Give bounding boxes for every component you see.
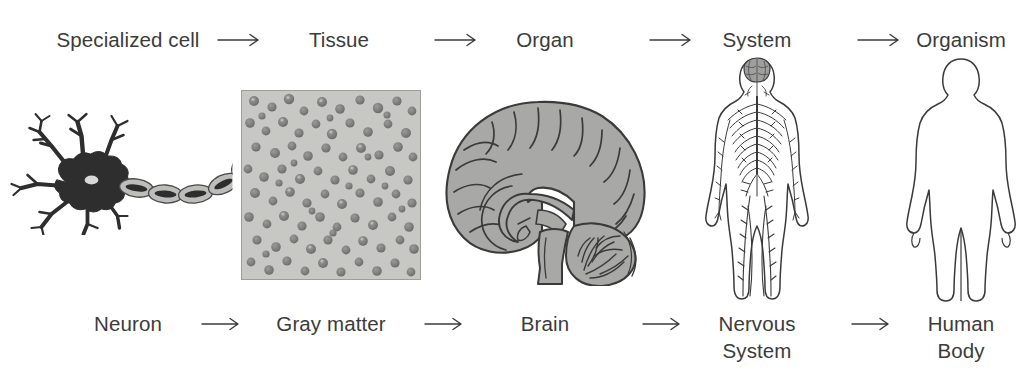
bottom-label-gray-matter: Gray matter bbox=[276, 310, 385, 337]
bottom-label-text-3: Nervous bbox=[718, 312, 795, 335]
bottom-label-text-2: Brain bbox=[521, 312, 569, 335]
bottom-label-text-1: Gray matter bbox=[276, 312, 385, 335]
levels-of-organization-diagram: Specialized cell Tissue Organ System bbox=[0, 0, 1022, 383]
arrow-bottom-1 bbox=[201, 316, 243, 332]
brain-illustration bbox=[434, 98, 656, 286]
top-label-text-4: Organism bbox=[916, 28, 1006, 51]
bottom-label-text-3-line2: System bbox=[718, 337, 795, 364]
top-label-text-0: Specialized cell bbox=[57, 28, 200, 51]
bottom-label-text-4: Human bbox=[928, 312, 995, 335]
arrow-top-2 bbox=[434, 32, 480, 48]
bottom-label-human-body: Human Body bbox=[928, 310, 995, 365]
arrow-bottom-2 bbox=[424, 316, 466, 332]
top-label-text-1: Tissue bbox=[309, 28, 369, 51]
arrow-top-1 bbox=[217, 32, 263, 48]
top-label-specialized-cell: Specialized cell bbox=[57, 26, 200, 53]
top-label-text-3: System bbox=[723, 28, 792, 51]
top-label-text-2: Organ bbox=[516, 28, 573, 51]
human-body-illustration bbox=[905, 56, 1017, 302]
bottom-label-nervous-system: Nervous System bbox=[718, 310, 795, 365]
top-label-system: System bbox=[723, 26, 792, 53]
bottom-label-neuron: Neuron bbox=[94, 310, 162, 337]
neuron-illustration bbox=[8, 110, 233, 235]
top-label-tissue: Tissue bbox=[309, 26, 369, 53]
nervous-system-illustration bbox=[698, 56, 816, 302]
arrow-bottom-3 bbox=[642, 316, 684, 332]
gray-matter-micrograph bbox=[241, 90, 421, 280]
bottom-label-text-4-line2: Body bbox=[928, 337, 995, 364]
top-label-organ: Organ bbox=[516, 26, 573, 53]
bottom-label-brain: Brain bbox=[521, 310, 569, 337]
top-label-organism: Organism bbox=[916, 26, 1006, 53]
bottom-label-text-0: Neuron bbox=[94, 312, 162, 335]
arrow-top-4 bbox=[857, 32, 903, 48]
arrow-bottom-4 bbox=[851, 316, 893, 332]
arrow-top-3 bbox=[649, 32, 695, 48]
